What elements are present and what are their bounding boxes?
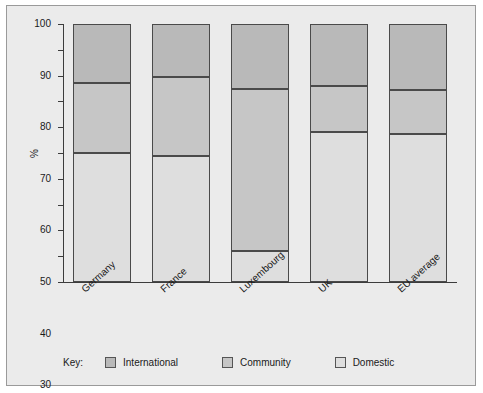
chart-figure: % 0102030405060708090100 GermanyFranceLu… xyxy=(0,0,483,393)
bar-segment-domestic[interactable] xyxy=(152,156,210,282)
legend-label: International xyxy=(123,357,178,368)
legend-swatch-icon xyxy=(335,357,346,368)
legend-swatch-icon xyxy=(222,357,233,368)
bar-france[interactable] xyxy=(152,24,210,282)
y-tick-mark: 40 xyxy=(58,179,63,180)
y-tick-mark: 90 xyxy=(58,50,63,51)
y-tick-mark: 30 xyxy=(58,205,63,206)
plot-area: 0102030405060708090100 GermanyFranceLuxe… xyxy=(63,24,457,282)
legend-entries: InternationalCommunityDomestic xyxy=(105,357,438,368)
legend-title: Key: xyxy=(63,357,83,368)
y-tick-label: 100 xyxy=(34,19,51,29)
bar-segment-community[interactable] xyxy=(73,83,131,153)
legend-label: Domestic xyxy=(353,357,395,368)
bar-uk[interactable] xyxy=(310,24,368,282)
y-tick-mark: 100 xyxy=(58,24,63,25)
bar-germany[interactable] xyxy=(73,24,131,282)
y-tick-mark: 80 xyxy=(58,76,63,77)
bar-segment-international[interactable] xyxy=(310,24,368,86)
y-tick-mark: 70 xyxy=(58,101,63,102)
bar-segment-international[interactable] xyxy=(73,24,131,83)
bar-segment-community[interactable] xyxy=(152,77,210,156)
bar-segment-community[interactable] xyxy=(389,90,447,134)
bar-eu-average[interactable] xyxy=(389,24,447,282)
legend-swatch-icon xyxy=(105,357,116,368)
chart-legend: Key: InternationalCommunityDomestic xyxy=(63,352,459,372)
y-tick-label: 90 xyxy=(40,71,51,81)
bar-segment-community[interactable] xyxy=(231,89,289,252)
y-tick-mark: 10 xyxy=(58,256,63,257)
y-tick-label: 60 xyxy=(40,225,51,235)
bar-segment-international[interactable] xyxy=(389,24,447,90)
bar-luxembourg[interactable] xyxy=(231,24,289,282)
y-tick-mark: 50 xyxy=(58,153,63,154)
y-tick-label: 80 xyxy=(40,122,51,132)
y-tick-label: 40 xyxy=(40,329,51,339)
y-tick-mark: 0 xyxy=(58,282,63,283)
legend-entry-international[interactable]: International xyxy=(105,357,178,368)
legend-label: Community xyxy=(240,357,291,368)
y-tick-mark: 60 xyxy=(58,127,63,128)
y-tick-mark: 20 xyxy=(58,230,63,231)
y-tick-label: 70 xyxy=(40,174,51,184)
y-axis-title: % xyxy=(29,149,40,158)
legend-entry-community[interactable]: Community xyxy=(222,357,291,368)
bar-segment-international[interactable] xyxy=(231,24,289,89)
bar-segment-domestic[interactable] xyxy=(310,132,368,282)
y-tick-label: 30 xyxy=(40,380,51,390)
bar-segment-domestic[interactable] xyxy=(73,153,131,282)
bar-segment-community[interactable] xyxy=(310,86,368,132)
y-tick-label: 50 xyxy=(40,277,51,287)
y-axis-line xyxy=(63,24,64,283)
legend-entry-domestic[interactable]: Domestic xyxy=(335,357,395,368)
bar-segment-international[interactable] xyxy=(152,24,210,77)
chart-panel: % 0102030405060708090100 GermanyFranceLu… xyxy=(6,5,476,386)
